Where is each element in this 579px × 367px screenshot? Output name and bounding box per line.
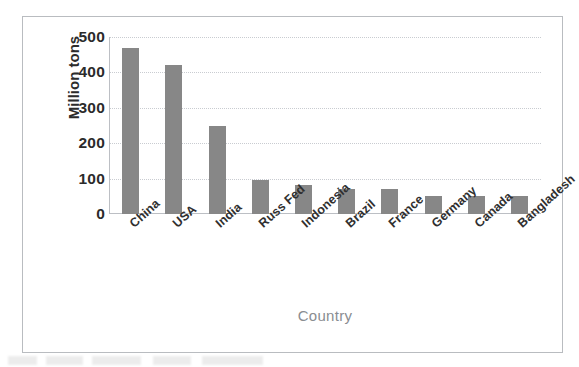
- y-axis-title: Million tons: [65, 0, 82, 158]
- gridline-500: [109, 37, 541, 38]
- bar-china: [122, 48, 139, 214]
- y-axis-line: [109, 37, 110, 214]
- bar-usa: [165, 65, 182, 214]
- caption-smudge: [8, 356, 298, 365]
- plot-area: [109, 37, 541, 214]
- x-axis-title: Country: [109, 307, 541, 324]
- y-tick-label-100: 100: [57, 170, 105, 188]
- figure-container: 500 400 300 200 100 0 Million tons China…: [0, 0, 579, 367]
- bar-india: [209, 126, 226, 214]
- bar-russ-fed: [252, 180, 269, 214]
- y-tick-label-0: 0: [57, 205, 105, 223]
- chart-frame: 500 400 300 200 100 0 Million tons China…: [22, 16, 563, 353]
